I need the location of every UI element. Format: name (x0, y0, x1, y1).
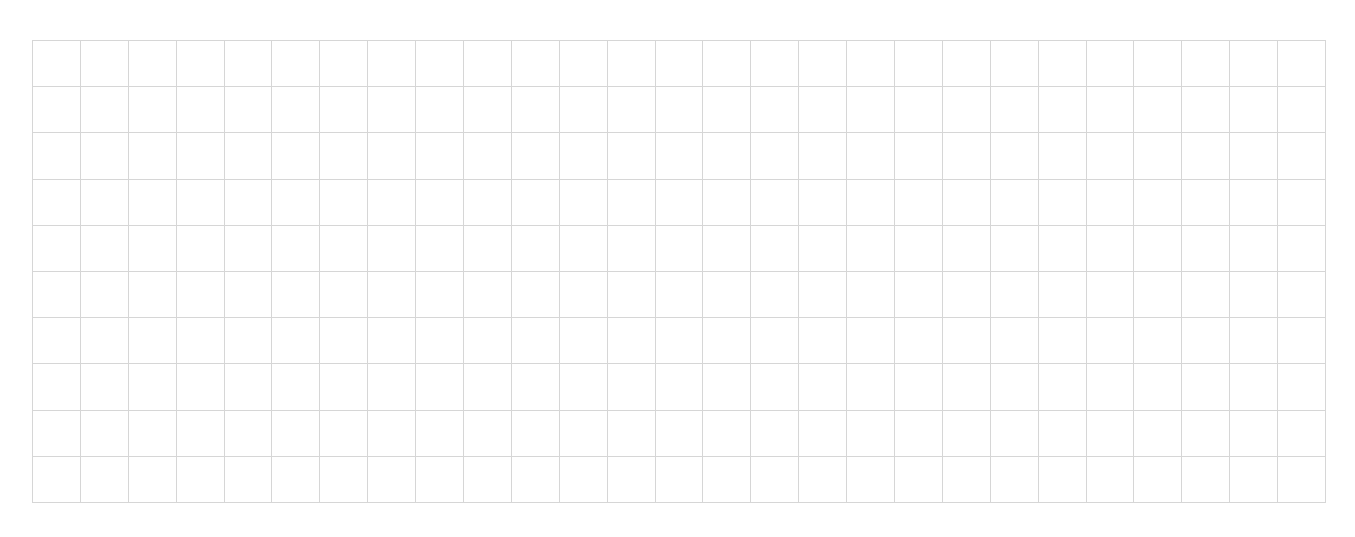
grid-cell (894, 179, 942, 225)
grid-cell (798, 179, 846, 225)
grid-cell (750, 86, 798, 132)
grid-cell (176, 456, 224, 502)
grid-cell (367, 225, 415, 271)
grid-cell (80, 225, 128, 271)
grid-cell (1086, 179, 1134, 225)
grid-cell (271, 410, 319, 456)
grid-cell (224, 86, 272, 132)
grid-cell (846, 410, 894, 456)
grid-cell (271, 317, 319, 363)
grid-cell (80, 132, 128, 178)
grid-cell (942, 225, 990, 271)
grid-cell (224, 132, 272, 178)
grid-cell (367, 317, 415, 363)
grid-cell (607, 363, 655, 409)
grid-cell (1133, 271, 1181, 317)
grid-cell (176, 40, 224, 86)
grid-cell (1133, 132, 1181, 178)
grid-cell (176, 225, 224, 271)
grid-cell (463, 132, 511, 178)
grid-cell (655, 456, 703, 502)
grid-cell (463, 225, 511, 271)
grid-cell (1181, 179, 1229, 225)
grid-cell (942, 271, 990, 317)
grid-cell (702, 456, 750, 502)
grid-cell (559, 179, 607, 225)
grid-cell (224, 225, 272, 271)
grid-cell (846, 132, 894, 178)
grid-cell (32, 317, 80, 363)
grid-cell (942, 86, 990, 132)
grid-cell (655, 40, 703, 86)
grid-cell (1086, 456, 1134, 502)
grid-cell (750, 271, 798, 317)
grid-cell (702, 179, 750, 225)
grid-cell (319, 363, 367, 409)
grid-cell (655, 410, 703, 456)
grid-cell (1277, 363, 1325, 409)
grid-cell (32, 132, 80, 178)
grid-cell (559, 410, 607, 456)
grid-cell (1038, 132, 1086, 178)
grid-cell (846, 225, 894, 271)
grid-cell (1086, 363, 1134, 409)
grid-cell (990, 456, 1038, 502)
grid-cell (271, 179, 319, 225)
grid-cell (750, 132, 798, 178)
grid-cell (463, 317, 511, 363)
grid-cell (655, 363, 703, 409)
grid-cell (798, 40, 846, 86)
grid-cell (894, 40, 942, 86)
grid-cell (367, 179, 415, 225)
grid-cell (1038, 317, 1086, 363)
grid-cell (80, 456, 128, 502)
grid-cell (463, 456, 511, 502)
grid-cell (128, 456, 176, 502)
grid-cell (559, 456, 607, 502)
grid-cell (319, 317, 367, 363)
grid-cell (128, 40, 176, 86)
grid-cell (176, 317, 224, 363)
grid-cell (1181, 271, 1229, 317)
grid-cell (990, 410, 1038, 456)
grid-cell (1181, 132, 1229, 178)
grid-cell (128, 225, 176, 271)
grid-cell (176, 271, 224, 317)
grid-cell (1038, 456, 1086, 502)
grid-cell (176, 132, 224, 178)
grid-cell (224, 271, 272, 317)
grid-cell (415, 317, 463, 363)
grid-cell (415, 132, 463, 178)
grid-cell (32, 456, 80, 502)
grid-cell (846, 86, 894, 132)
grid-cell (1133, 317, 1181, 363)
grid-cell (990, 317, 1038, 363)
grid-cell (846, 456, 894, 502)
grid-cell (798, 363, 846, 409)
grid-cell (1086, 271, 1134, 317)
grid-cell (702, 86, 750, 132)
grid-cell (224, 317, 272, 363)
grid-cell (1277, 40, 1325, 86)
grid-cell (990, 225, 1038, 271)
grid-cell (271, 456, 319, 502)
grid-cell (271, 271, 319, 317)
grid-cell (655, 317, 703, 363)
grid-cell (942, 410, 990, 456)
grid-cell (319, 179, 367, 225)
grid-cell (32, 410, 80, 456)
grid-cell (1133, 456, 1181, 502)
grid-cell (1229, 40, 1277, 86)
grid-cell (511, 317, 559, 363)
grid-cell (894, 410, 942, 456)
grid-cell (990, 271, 1038, 317)
grid-cell (798, 132, 846, 178)
grid-cell (1229, 271, 1277, 317)
grid-cell (1181, 456, 1229, 502)
grid-cell (511, 363, 559, 409)
grid-cell (607, 271, 655, 317)
grid-cell (990, 86, 1038, 132)
grid-cell (271, 225, 319, 271)
grid-cell (846, 363, 894, 409)
grid-cell (32, 179, 80, 225)
